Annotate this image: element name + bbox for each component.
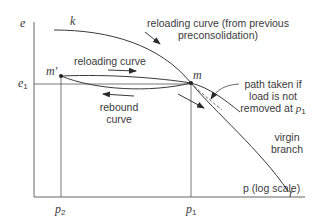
p1-label-subscript: 1: [192, 208, 196, 217]
reloading-previous-line2: preconsolidation): [128, 29, 308, 41]
y-axis-label: e: [20, 17, 25, 29]
e1-label-subscript: 1: [23, 82, 27, 91]
virgin-branch-annotation: virgin branch: [262, 131, 312, 155]
point-m-label: m: [193, 69, 202, 81]
point-m-prime: [59, 74, 63, 78]
rebound-curve: [61, 76, 191, 89]
path-line3: removed at p1: [232, 102, 314, 118]
reloading-arrow: [108, 70, 136, 71]
rebound-line1: rebound: [94, 101, 144, 113]
point-r-label: r: [289, 187, 294, 199]
path-line2: load is not: [232, 90, 314, 102]
e1-label: e1: [18, 77, 28, 93]
p2-label: p2: [55, 203, 65, 219]
rebound-arrow: [103, 94, 134, 96]
rebound-line2: curve: [94, 113, 144, 125]
virgin-line2: branch: [262, 143, 312, 155]
virgin-line1: virgin: [262, 131, 312, 143]
point-m-prime-label: m′: [46, 65, 57, 77]
p1-label: p1: [186, 203, 196, 219]
dashed-continuation-path: [191, 83, 222, 110]
p2-label-subscript: 2: [61, 208, 65, 217]
point-k-label: k: [70, 15, 75, 27]
reloading-previous-annotation: reloading curve (from previous preconsol…: [128, 17, 308, 41]
path-annotation: path taken if load is not removed at p1: [232, 78, 314, 118]
rebound-annotation: rebound curve: [94, 101, 144, 125]
consolidation-diagram: e e1 p2 p1 p (log scale) k m′ m r reload…: [0, 0, 322, 219]
reloading-curve-annotation: reloading curve: [74, 55, 146, 67]
reloading-previous-line1: reloading curve (from previous: [128, 17, 308, 29]
path-line1: path taken if: [232, 78, 314, 90]
